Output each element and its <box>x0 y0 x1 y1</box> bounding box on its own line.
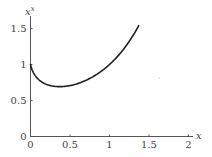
x-axis-label: x <box>196 130 202 141</box>
speck <box>158 77 159 78</box>
y-tick-label: 1.5 <box>11 23 27 34</box>
series-line-x-pow-x <box>31 26 139 87</box>
x-tick-label: 1 <box>106 139 112 150</box>
y-tick-label: 0.5 <box>11 95 27 106</box>
x-tick-label: 2 <box>185 139 191 150</box>
axes <box>30 16 193 137</box>
x-tick-label: 0 <box>27 139 33 150</box>
y-tick-label: 0 <box>20 131 26 142</box>
x-tick-label: 1.5 <box>141 139 157 150</box>
x-tick-label: 0.5 <box>62 139 78 150</box>
y-axis-label: xx <box>25 5 35 17</box>
y-axis-label-exponent: x <box>31 5 35 13</box>
chart: 00.511.52 00.511.5 x xx <box>0 0 212 157</box>
y-tick-label: 1 <box>20 59 26 70</box>
y-ticks: 00.511.5 <box>11 23 33 142</box>
